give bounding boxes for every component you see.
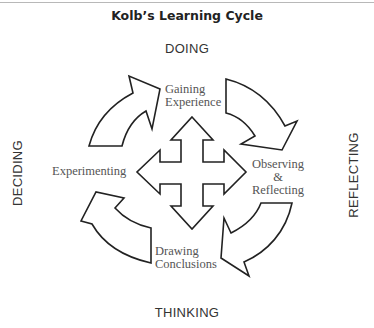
stage-experimenting: Experimenting bbox=[52, 165, 126, 178]
curved-arrow-top-left-icon bbox=[89, 76, 160, 146]
four-way-arrow-icon bbox=[137, 117, 246, 229]
curved-arrow-bottom-left-icon bbox=[81, 192, 151, 263]
stage-label-line: Reflecting bbox=[246, 184, 310, 197]
stage-observing-reflecting: Observing & Reflecting bbox=[246, 158, 310, 197]
stage-drawing-conclusions: Drawing Conclusions bbox=[155, 245, 217, 271]
stage-label-line: Conclusions bbox=[155, 258, 217, 271]
curved-arrow-top-right-icon bbox=[226, 79, 297, 150]
stage-gaining-experience: Gaining Experience bbox=[165, 83, 221, 109]
stage-label-line: Experimenting bbox=[52, 165, 126, 178]
curved-arrow-bottom-right-icon bbox=[221, 203, 292, 276]
stage-label-line: Experience bbox=[165, 96, 221, 109]
